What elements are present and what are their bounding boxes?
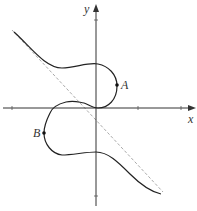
y-axis-label: y (84, 3, 89, 15)
x-axis-arrow-icon (188, 105, 196, 111)
point-b-label: B (33, 127, 40, 139)
point-a (115, 83, 119, 87)
point-a-label: A (121, 79, 128, 91)
plot-canvas (0, 0, 197, 211)
point-b (42, 131, 46, 135)
curve-diagram: y x A B (0, 0, 197, 211)
x-axis-label: x (188, 113, 193, 125)
asymptote-line (12, 30, 163, 192)
y-axis-arrow-icon (93, 4, 99, 12)
